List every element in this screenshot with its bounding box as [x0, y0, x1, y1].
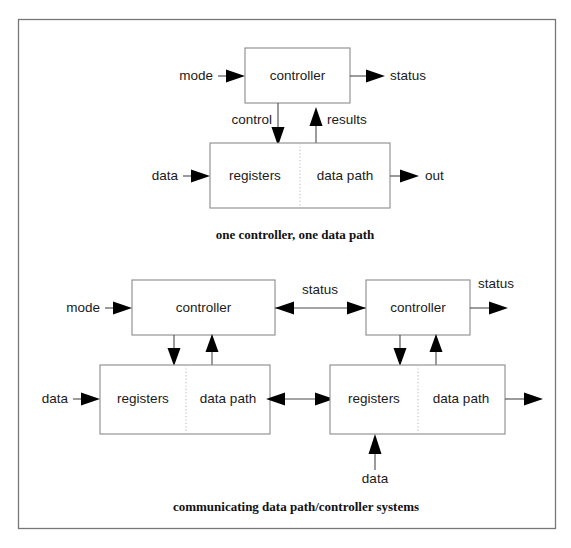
top-results-label: results — [327, 112, 367, 127]
top-controller-label: controller — [270, 68, 326, 83]
bottom-right-data-in-arrowhead — [369, 434, 382, 454]
top-control-label: control — [231, 112, 272, 127]
bottom-left-controller-label: controller — [176, 300, 232, 315]
top-mode-arrowhead — [226, 70, 245, 83]
diagram-top: controller mode status control results r… — [152, 48, 444, 242]
bottom-caption: communicating data path/controller syste… — [173, 499, 419, 514]
figure-root: controller mode status control results r… — [0, 0, 571, 548]
top-out-label: out — [425, 168, 444, 183]
bottom-right-data-in-label: data — [362, 471, 389, 486]
bottom-left-results-arrowhead — [206, 334, 219, 352]
bottom-right-controller-label: controller — [390, 300, 446, 315]
bottom-left-control-arrowhead — [168, 348, 181, 366]
bottom-right-data-path-label: data path — [433, 391, 489, 406]
bottom-right-status-arrowhead — [489, 302, 508, 315]
top-registers-label: registers — [229, 168, 281, 183]
diagram-bottom: controller mode registers data path data… — [42, 276, 543, 514]
top-data-path-label: data path — [317, 168, 373, 183]
bottom-right-registers-label: registers — [348, 391, 400, 406]
controller-link-label: status — [302, 282, 338, 297]
bottom-right-out-arrowhead — [524, 393, 543, 406]
bottom-left-data-in-label: data — [42, 391, 69, 406]
block-diagram-canvas: controller mode status control results r… — [0, 0, 571, 548]
top-results-arrowhead — [310, 107, 323, 126]
top-status-arrowhead — [366, 70, 385, 83]
bottom-mode-arrowhead — [113, 302, 132, 315]
top-data-in-label: data — [152, 168, 179, 183]
controller-link-arrowhead-left — [275, 302, 294, 315]
bottom-mode-label: mode — [66, 300, 100, 315]
top-mode-label: mode — [179, 68, 213, 83]
controller-link-arrowhead-right — [347, 302, 366, 315]
top-out-arrowhead — [400, 170, 419, 183]
bottom-right-status-label: status — [478, 276, 514, 291]
bottom-left-registers-label: registers — [117, 391, 169, 406]
top-data-in-arrowhead — [191, 170, 210, 183]
bottom-left-data-in-arrowhead — [81, 393, 100, 406]
bottom-right-control-arrowhead — [394, 348, 407, 366]
top-status-label: status — [390, 68, 426, 83]
bottom-left-data-path-label: data path — [200, 391, 256, 406]
top-caption: one controller, one data path — [216, 227, 375, 242]
bottom-right-results-arrowhead — [430, 334, 443, 352]
